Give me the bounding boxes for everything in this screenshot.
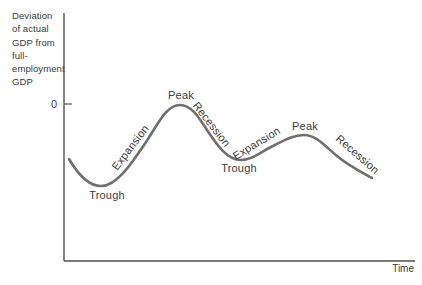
business-cycle-figure: Deviation of actual GDP from full- emplo… [0,0,422,285]
phase-label-trough-4: Trough [221,162,257,174]
phase-label-peak-6: Peak [292,120,318,132]
time-axis-label: Time [392,263,414,274]
phase-labels: TroughExpansionPeakRecessionTroughExpans… [89,89,382,201]
business-cycle-chart: 0 TroughExpansionPeakRecessionTroughExpa… [0,0,422,285]
zero-tick-label: 0 [51,98,57,110]
phase-label-trough-0: Trough [89,189,125,201]
phase-label-recession-3: Recession [191,100,233,149]
phase-label-peak-2: Peak [168,89,194,101]
